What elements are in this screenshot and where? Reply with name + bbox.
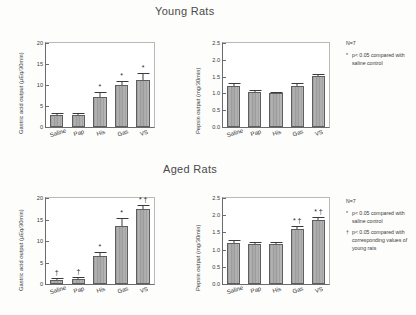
- y-axis-tick: 15: [37, 61, 46, 67]
- error-bar: [297, 226, 298, 229]
- x-axis-tick: Saline: [49, 285, 67, 296]
- bar-item: *His: [89, 43, 111, 127]
- error-bar: [233, 83, 234, 86]
- bar: [136, 80, 149, 127]
- bar: [248, 244, 261, 284]
- significance-marker: †: [76, 268, 80, 275]
- error-bar: [143, 73, 144, 80]
- ylabel-young-pepsin: Pepsin output (mg/30min): [195, 68, 201, 134]
- legend-text-asterisk: p< 0.05 compared with saline control: [352, 210, 416, 226]
- x-axis-tick: His: [272, 129, 282, 137]
- bar: [312, 220, 325, 284]
- bar: [291, 229, 304, 284]
- legend-aged-row-1: † p< 0.05 compared with corresponding va…: [346, 229, 416, 252]
- y-axis-tick: 20: [37, 195, 46, 201]
- y-axis-tick: 2.0: [212, 212, 223, 218]
- bar: [93, 256, 106, 284]
- y-axis-tick: 1.5: [212, 74, 223, 80]
- x-axis-tick: VS: [139, 286, 148, 294]
- bar-group: SalinePap*His*Gas*VS: [46, 43, 154, 127]
- bar: [269, 93, 282, 127]
- bar-item: Saline: [223, 43, 244, 127]
- error-bar: [121, 218, 122, 226]
- bar: [93, 97, 106, 127]
- legend-text-dagger: p< 0.05 compared with corresponding valu…: [352, 229, 416, 252]
- ylabel-young-gastric: Gastric acid output (µEq/30min): [18, 52, 24, 134]
- error-bar: [297, 83, 298, 86]
- y-axis-tick: 10: [37, 238, 46, 244]
- error-bar: [99, 92, 100, 97]
- error-bar: [78, 113, 79, 115]
- bar-item: * †Gas: [287, 198, 308, 284]
- bar-item: * †VS: [308, 198, 329, 284]
- x-axis-tick: Saline: [49, 128, 67, 139]
- bar: [115, 226, 128, 284]
- bar: [269, 244, 282, 284]
- x-axis-tick: Gas: [116, 128, 128, 137]
- error-bar: [254, 242, 255, 244]
- bar-item: Saline: [46, 43, 68, 127]
- significance-marker: * †: [314, 208, 323, 215]
- error-bar: [318, 74, 319, 76]
- error-bar: [233, 240, 234, 242]
- bar: [248, 92, 261, 127]
- bar: [312, 76, 325, 127]
- y-axis-tick: 1.0: [212, 90, 223, 96]
- error-bar: [276, 92, 277, 93]
- error-bar: [121, 81, 122, 85]
- bar-item: * †VS: [132, 198, 154, 284]
- bar-item: Saline: [223, 198, 244, 284]
- x-axis-tick: Gas: [116, 285, 128, 294]
- error-bar: [78, 277, 79, 279]
- ylabel-aged-gastric: Gastric acid output (µEq/30min): [18, 209, 24, 291]
- plot-area: 0.00.51.01.52.02.5SalinePapHis* †Gas* †V…: [222, 197, 330, 285]
- error-bar: [56, 113, 57, 115]
- bar: [136, 209, 149, 284]
- error-bar: [318, 217, 319, 220]
- legend-aged-row-0: * p< 0.05 compared with saline control: [346, 210, 416, 226]
- bar: [115, 85, 128, 127]
- bar-item: His: [265, 43, 286, 127]
- bar: [50, 115, 63, 127]
- x-axis-tick: Gas: [292, 285, 304, 294]
- error-bar: [56, 278, 57, 279]
- x-axis-tick: His: [96, 129, 106, 137]
- bar-group: SalinePapHis* †Gas* †VS: [223, 198, 329, 284]
- significance-marker: *: [99, 83, 102, 90]
- x-axis-tick: Gas: [292, 128, 304, 137]
- chart-young-pepsin: 0.00.51.01.52.02.5SalinePapHisGasVS: [222, 42, 330, 128]
- x-axis-tick: Pap: [250, 285, 262, 294]
- significance-marker: *: [120, 72, 123, 79]
- bar-item: VS: [308, 43, 329, 127]
- bar-item: Pap: [68, 43, 90, 127]
- bar-item: *VS: [132, 43, 154, 127]
- error-bar: [99, 252, 100, 256]
- x-axis-tick: VS: [139, 129, 148, 137]
- panel-title-young: Young Rats: [155, 5, 214, 17]
- bar: [72, 279, 85, 284]
- bar: [72, 115, 85, 127]
- x-axis-tick: VS: [315, 129, 324, 137]
- error-bar: [276, 242, 277, 244]
- plot-area: 05101520SalinePap*His*Gas*VS: [45, 42, 155, 128]
- x-axis-tick: Saline: [226, 128, 244, 139]
- ylabel-aged-pepsin: Pepsin output (mg/30min): [195, 225, 201, 291]
- x-axis-tick: Saline: [226, 285, 244, 296]
- significance-marker: * †: [139, 196, 148, 203]
- error-bar: [143, 205, 144, 208]
- bar-item: Pap: [244, 43, 265, 127]
- legend-young-row-0: * p< 0.05 compared with saline control: [346, 52, 416, 68]
- y-axis-tick: 2.5: [212, 195, 223, 201]
- error-bar: [254, 90, 255, 92]
- legend-text-asterisk: p< 0.05 compared with saline control: [352, 52, 416, 68]
- x-axis-tick: His: [272, 286, 282, 294]
- bar: [227, 243, 240, 284]
- legend-aged-n: N=7: [346, 198, 416, 206]
- significance-marker: *: [142, 64, 145, 71]
- y-axis-tick: 0.5: [212, 107, 223, 113]
- bar: [50, 280, 63, 284]
- panel-title-aged: Aged Rats: [163, 163, 217, 175]
- bar-item: His: [265, 198, 286, 284]
- plot-area: 0.00.51.01.52.02.5SalinePapHisGasVS: [222, 42, 330, 128]
- significance-marker: * †: [293, 217, 302, 224]
